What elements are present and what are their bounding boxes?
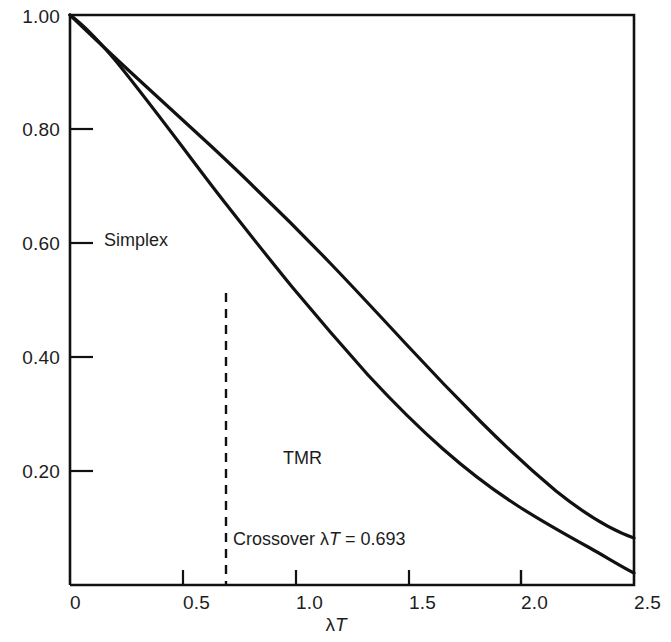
series-label-tmr: TMR [283, 448, 322, 469]
y-tick-label-0.60: 0.60 [0, 233, 60, 255]
crossover-value-text: = 0.693 [340, 529, 406, 549]
curve-simplex [70, 15, 634, 573]
crossover-lambda-symbol: λ [320, 529, 329, 549]
axes-frame [70, 15, 634, 585]
series-label-simplex: Simplex [104, 230, 168, 251]
y-tick-label-0.40: 0.40 [0, 347, 60, 369]
y-axis-ticks [70, 129, 93, 471]
y-tick-label-0.80: 0.80 [0, 119, 60, 141]
y-tick-label-1.00: 1.00 [0, 6, 60, 28]
axis-frame-path [70, 15, 634, 585]
figure-container: 1.00 0.80 0.60 0.40 0.20 0 0.5 1.0 1.5 2… [0, 0, 671, 642]
x-axis-ticks [183, 570, 521, 585]
y-tick-label-0.20: 0.20 [0, 461, 60, 483]
axis-lambda-symbol: λ [325, 614, 335, 635]
crossover-prefix-text: Crossover [233, 529, 320, 549]
crossover-T-symbol: T [329, 529, 340, 549]
crossover-annotation: Crossover λT = 0.693 [233, 529, 406, 550]
curve-tmr [70, 15, 634, 538]
x-axis-title: λT [325, 614, 346, 636]
axis-T-symbol: T [335, 614, 347, 635]
